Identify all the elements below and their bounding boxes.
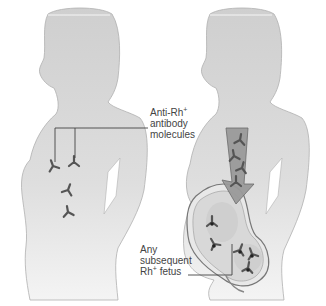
antibody-label-line1: Anti-Rh+	[150, 107, 195, 118]
fetus-label-line1: Any	[140, 244, 192, 255]
fetus-label-line3: Rh+ fetus	[140, 266, 192, 277]
left-woman-silhouette	[21, 8, 147, 300]
fetus-label-line2: subsequent	[140, 255, 192, 266]
fetus-label: Any subsequent Rh+ fetus	[140, 244, 192, 277]
diagram-canvas: Anti-Rh+ antibody molecules Any subseque…	[0, 0, 326, 306]
antibody-label-line2: antibody	[150, 118, 195, 129]
antibody-label-line3: molecules	[150, 129, 195, 140]
antibody-label: Anti-Rh+ antibody molecules	[150, 107, 195, 140]
